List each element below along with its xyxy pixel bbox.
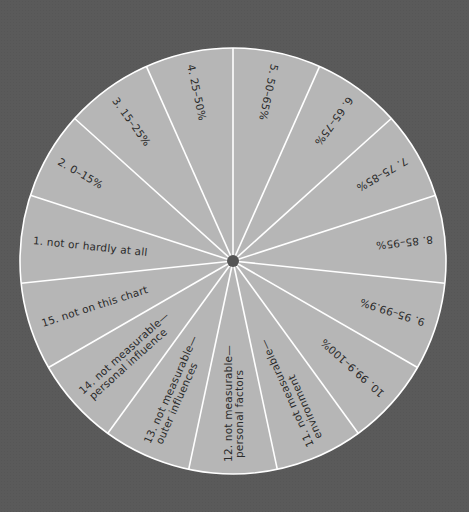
segment-label-line2: personal factors xyxy=(233,370,245,458)
center-hub xyxy=(227,255,239,267)
wheel-diagram: 1. not or hardly at all2. 0–15%3. 15–25%… xyxy=(0,0,469,512)
chart-background: 1. not or hardly at all2. 0–15%3. 15–25%… xyxy=(0,0,469,512)
